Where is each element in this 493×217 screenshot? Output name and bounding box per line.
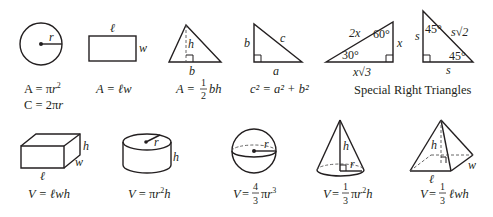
cone-figure: h r bbox=[317, 120, 364, 176]
svg-text:=: = bbox=[242, 187, 249, 201]
geometry-reference-sheet: r A = πr2 C = 2πr ℓ w A = ℓw h b A = 1 2… bbox=[0, 0, 493, 217]
cylinder-volume-formula: V = πr2h bbox=[128, 186, 170, 201]
svg-text:3: 3 bbox=[440, 195, 445, 206]
svg-text:πr3: πr3 bbox=[261, 186, 276, 201]
special-30-60-90-long-label: x√3 bbox=[352, 65, 371, 79]
special-30-60-90-30-label: 30° bbox=[342, 48, 359, 62]
svg-text:2: 2 bbox=[201, 90, 206, 101]
svg-text:πr2h: πr2h bbox=[351, 186, 372, 201]
prism-height-label: h bbox=[83, 139, 89, 153]
sphere-figure: r bbox=[232, 129, 276, 173]
right-triangle-b-label: b bbox=[244, 36, 250, 50]
svg-text:V: V bbox=[323, 187, 332, 201]
svg-text:1: 1 bbox=[343, 181, 348, 192]
rectangle-area-formula: A = ℓw bbox=[95, 82, 132, 96]
pyramid-figure: h w ℓ bbox=[410, 120, 476, 186]
right-triangle-c-label: c bbox=[280, 31, 286, 45]
cone-volume-formula: V = 1 3 πr2h bbox=[323, 181, 372, 206]
circle-radius-label: r bbox=[49, 30, 54, 44]
svg-text:=: = bbox=[332, 187, 339, 201]
prism-volume-formula: V = ℓwh bbox=[28, 187, 70, 201]
svg-text:ℓwh: ℓwh bbox=[449, 187, 469, 201]
svg-text:V: V bbox=[233, 187, 242, 201]
circle-circumference-formula: C = 2πr bbox=[24, 98, 63, 112]
svg-text:bh: bh bbox=[209, 82, 222, 96]
cone-radius-label: r bbox=[350, 157, 355, 171]
pyramid-height-label: h bbox=[431, 138, 437, 152]
triangle-45-45-90-figure: s 45° s√2 45° s bbox=[415, 11, 473, 77]
special-30-60-90-short-label: x bbox=[396, 36, 403, 50]
prism-length-label: ℓ bbox=[40, 169, 45, 183]
cylinder-height-label: h bbox=[173, 150, 179, 164]
svg-text:V: V bbox=[420, 187, 429, 201]
pyramid-width-label: w bbox=[468, 158, 476, 172]
special-45-45-90-side-label: s bbox=[415, 29, 420, 43]
rectangle-figure: ℓ w bbox=[89, 21, 147, 61]
right-triangle-a-label: a bbox=[273, 64, 279, 78]
triangle-height-label: h bbox=[188, 37, 194, 51]
svg-text:3: 3 bbox=[343, 195, 348, 206]
special-45-45-90-top-angle-label: 45° bbox=[425, 22, 442, 36]
triangle-area-formula: A = 1 2 bh bbox=[175, 77, 222, 101]
circle-area-formula: A = πr2 bbox=[24, 81, 61, 96]
pyramid-length-label: ℓ bbox=[429, 172, 434, 186]
svg-text:4: 4 bbox=[253, 181, 258, 192]
rectangle-width-label: w bbox=[139, 41, 147, 55]
triangle-figure: h b bbox=[169, 25, 221, 78]
prism-width-label: w bbox=[75, 155, 83, 169]
pythagorean-formula: c² = a² + b² bbox=[250, 82, 309, 96]
svg-text:1: 1 bbox=[440, 181, 445, 192]
special-right-triangles-caption: Special Right Triangles bbox=[354, 83, 472, 97]
svg-text:A =: A = bbox=[175, 82, 195, 96]
svg-text:1: 1 bbox=[201, 77, 206, 88]
special-30-60-90-hyp-label: 2x bbox=[349, 26, 361, 40]
special-30-60-90-60-label: 60° bbox=[373, 27, 390, 41]
cylinder-figure: r h bbox=[123, 134, 179, 173]
triangle-30-60-90-figure: 2x 60° 30° x x√3 bbox=[326, 22, 403, 79]
special-45-45-90-bottom-label: s bbox=[446, 63, 451, 77]
pyramid-volume-formula: V = 1 3 ℓwh bbox=[420, 181, 469, 206]
rectangular-prism-figure: h w ℓ bbox=[21, 134, 89, 183]
special-45-45-90-hyp-label: s√2 bbox=[451, 25, 468, 39]
svg-text:3: 3 bbox=[253, 195, 258, 206]
circle-figure: r bbox=[20, 23, 62, 65]
triangle-base-label: b bbox=[189, 64, 195, 78]
right-triangle-figure: b c a bbox=[244, 24, 302, 78]
special-45-45-90-bottom-angle-label: 45° bbox=[449, 49, 466, 63]
cylinder-radius-label: r bbox=[154, 135, 159, 149]
cone-height-label: h bbox=[343, 139, 349, 153]
rectangle-length-label: ℓ bbox=[110, 21, 115, 35]
svg-text:=: = bbox=[429, 187, 436, 201]
sphere-volume-formula: V = 4 3 πr3 bbox=[233, 181, 276, 206]
sphere-radius-label: r bbox=[264, 137, 269, 151]
